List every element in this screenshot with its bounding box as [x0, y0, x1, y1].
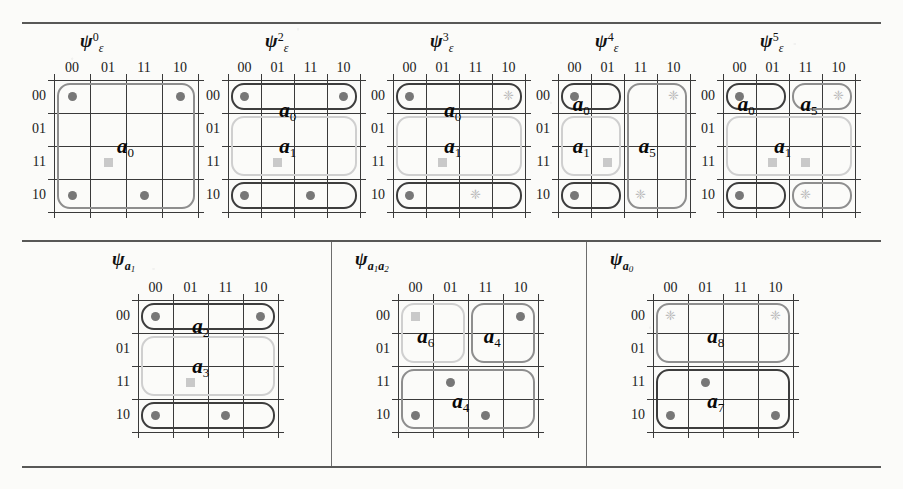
row-header-01-1: 01	[106, 341, 130, 357]
column-header-10-3: 10	[166, 60, 194, 76]
column-header-10-3: 10	[330, 60, 358, 76]
grid-line-horizontal	[132, 432, 284, 433]
row-header-01-1: 01	[196, 121, 220, 137]
row-header-10-3: 10	[106, 407, 130, 423]
cell-marker-dot	[240, 191, 249, 200]
implicant-group-a4	[471, 303, 535, 363]
implicant-group-a1	[561, 116, 621, 176]
cell-marker-star: ❈	[634, 188, 648, 202]
grid-line-vertical	[538, 294, 539, 438]
row-header-11-2: 11	[361, 154, 385, 170]
column-header-10-3: 10	[507, 280, 535, 296]
column-header-01-1: 01	[94, 60, 122, 76]
row-header-00-0: 00	[691, 88, 715, 104]
kmap-title-psi-eps-3: ψ3ε	[430, 30, 453, 56]
column-header-01-1: 01	[429, 60, 457, 76]
implicant-group	[396, 182, 522, 209]
row-header-11-2: 11	[621, 374, 645, 390]
cell-marker-star: ❈	[799, 188, 813, 202]
cell-marker-star: ❈	[664, 309, 678, 323]
grid-line-horizontal	[717, 212, 861, 213]
cell-marker-dot	[481, 411, 490, 420]
column-header-11-2: 11	[462, 60, 490, 76]
column-header-11-2: 11	[792, 60, 820, 76]
row-header-10-3: 10	[691, 187, 715, 203]
grid-line-horizontal	[717, 179, 861, 180]
row-header-10-3: 10	[526, 187, 550, 203]
implicant-label-a0: a0	[573, 92, 590, 119]
implicant-label-a1: a1	[279, 134, 296, 161]
cell-marker-dot	[339, 92, 348, 101]
grid-line-horizontal	[48, 212, 204, 213]
implicant-label-a5: a5	[639, 134, 656, 161]
cell-marker-dot	[68, 92, 77, 101]
grid-line-vertical	[855, 74, 856, 218]
kmap-title-psi-eps-5: ψ5ε	[760, 30, 783, 56]
cell-marker-dot	[405, 191, 414, 200]
implicant-group	[231, 182, 357, 209]
kmap-title-psi-eps-2: ψ2ε	[265, 30, 288, 56]
cell-marker-dot	[221, 411, 230, 420]
row-header-01-1: 01	[22, 121, 46, 137]
cell-marker-square	[411, 312, 420, 321]
grid-line-horizontal	[132, 399, 284, 400]
implicant-label-a1: a1	[573, 134, 590, 161]
cell-marker-star: ❈	[832, 89, 846, 103]
implicant-label-a5: a5	[801, 92, 818, 119]
cell-marker-dot	[446, 378, 455, 387]
row-header-00-0: 00	[361, 88, 385, 104]
row-header-11-2: 11	[22, 154, 46, 170]
cell-marker-square	[104, 158, 113, 167]
row-header-00-0: 00	[526, 88, 550, 104]
implicant-label-a6: a6	[417, 324, 434, 351]
row-header-01-1: 01	[526, 121, 550, 137]
row-header-00-0: 00	[366, 308, 390, 324]
grid-line-horizontal	[387, 212, 531, 213]
cell-marker-dot	[735, 191, 744, 200]
implicant-label-a4: a4	[452, 389, 469, 416]
column-header-01-1: 01	[594, 60, 622, 76]
row-header-10-3: 10	[361, 187, 385, 203]
row-header-10-3: 10	[196, 187, 220, 203]
column-header-10-3: 10	[762, 280, 790, 296]
kmap-title-psi-a1a2: ψa1a2	[355, 248, 389, 274]
column-header-10-3: 10	[825, 60, 853, 76]
kmap-title-psi-eps-4: ψ4ε	[595, 30, 618, 56]
column-header-11-2: 11	[130, 60, 158, 76]
cell-marker-square	[801, 158, 810, 167]
column-header-00-0: 00	[396, 60, 424, 76]
row-header-11-2: 11	[526, 154, 550, 170]
implicant-label-a8: a8	[707, 324, 724, 351]
cell-marker-dot	[256, 312, 265, 321]
column-header-00-0: 00	[726, 60, 754, 76]
implicant-label-a1: a1	[444, 134, 461, 161]
grid-line-horizontal	[647, 432, 799, 433]
cell-marker-dot	[701, 378, 710, 387]
column-header-00-0: 00	[231, 60, 259, 76]
column-header-00-0: 00	[142, 280, 170, 296]
divider-row2-left	[331, 242, 332, 466]
row-header-11-2: 11	[106, 374, 130, 390]
column-header-01-1: 01	[759, 60, 787, 76]
column-header-00-0: 00	[402, 280, 430, 296]
implicant-label-a1: a1	[774, 134, 791, 161]
rule-top	[22, 22, 881, 24]
cell-marker-dot	[666, 411, 675, 420]
column-header-01-1: 01	[264, 60, 292, 76]
cell-marker-dot	[405, 92, 414, 101]
cell-marker-dot	[176, 92, 185, 101]
column-header-11-2: 11	[472, 280, 500, 296]
implicant-label-a0: a0	[738, 92, 755, 119]
column-header-11-2: 11	[212, 280, 240, 296]
cell-marker-dot	[570, 191, 579, 200]
grid-line-horizontal	[552, 212, 696, 213]
row-header-01-1: 01	[621, 341, 645, 357]
grid-line-horizontal	[222, 212, 366, 213]
cell-marker-star: ❈	[469, 188, 483, 202]
column-header-10-3: 10	[247, 280, 275, 296]
kmap-title-psi-a1: ψa1	[112, 248, 135, 274]
rule-middle	[22, 240, 881, 242]
implicant-label-a0: a0	[444, 98, 461, 125]
row-header-11-2: 11	[366, 374, 390, 390]
column-header-00-0: 00	[561, 60, 589, 76]
